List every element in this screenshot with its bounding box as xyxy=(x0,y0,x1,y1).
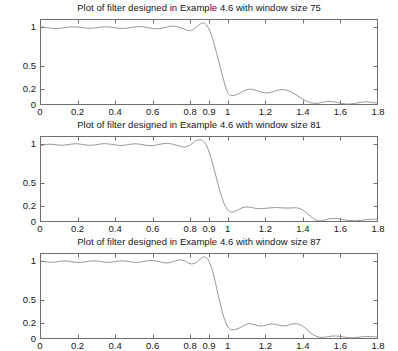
x-tick-label: 0.4 xyxy=(109,340,122,351)
plot-frame xyxy=(41,254,378,339)
y-tick-label: 0.2 xyxy=(2,318,36,328)
y-axis-labels-1: 00.20.51 xyxy=(0,19,36,105)
x-tick-label: 0 xyxy=(37,340,42,351)
plot-area-1 xyxy=(40,19,378,105)
y-tick-label: 1 xyxy=(2,256,36,266)
y-tick-label: 0 xyxy=(2,100,36,110)
y-tick-label: 0 xyxy=(2,217,36,227)
y-tick-label: 1 xyxy=(2,22,36,32)
x-axis-labels-3: 00.20.40.60.80.911.21.41.61.8 xyxy=(40,340,378,351)
y-tick-label: 1 xyxy=(2,139,36,149)
y-tick-label: 0.5 xyxy=(2,178,36,188)
magnitude-response-plot-2 xyxy=(40,136,378,222)
plot-frame xyxy=(41,20,378,105)
y-tick-label: 0.5 xyxy=(2,61,36,71)
x-tick-label: 0.2 xyxy=(71,340,84,351)
figure-canvas: Plot of filter designed in Example 4.6 w… xyxy=(0,0,398,351)
x-tick-label: 1.8 xyxy=(371,340,384,351)
x-tick-label: 0.9 xyxy=(202,340,215,351)
panel-title-3: Plot of filter designed in Example 4.6 w… xyxy=(0,236,398,248)
plot-panel-1: Plot of filter designed in Example 4.6 w… xyxy=(0,0,398,117)
plot-panel-2: Plot of filter designed in Example 4.6 w… xyxy=(0,117,398,234)
x-tick-label: 0.8 xyxy=(184,340,197,351)
plot-frame xyxy=(41,137,378,222)
x-tick-label: 1.2 xyxy=(259,340,272,351)
y-tick-label: 0 xyxy=(2,334,36,344)
x-tick-label: 1.4 xyxy=(296,340,309,351)
y-tick-label: 0.2 xyxy=(2,84,36,94)
magnitude-response-plot-1 xyxy=(40,19,378,105)
plot-area-3 xyxy=(40,253,378,339)
y-axis-labels-3: 00.20.51 xyxy=(0,253,36,339)
x-tick-label: 0.6 xyxy=(146,340,159,351)
series-line xyxy=(40,257,378,338)
series-line xyxy=(40,23,378,104)
plot-panel-3: Plot of filter designed in Example 4.6 w… xyxy=(0,234,398,351)
y-axis-labels-2: 00.20.51 xyxy=(0,136,36,222)
panel-title-1: Plot of filter designed in Example 4.6 w… xyxy=(0,2,398,14)
x-tick-label: 1.6 xyxy=(334,340,347,351)
panel-title-2: Plot of filter designed in Example 4.6 w… xyxy=(0,119,398,131)
series-line xyxy=(40,140,378,221)
plot-area-2 xyxy=(40,136,378,222)
x-tick-label: 1 xyxy=(225,340,230,351)
y-tick-label: 0.5 xyxy=(2,295,36,305)
magnitude-response-plot-3 xyxy=(40,253,378,339)
y-tick-label: 0.2 xyxy=(2,201,36,211)
